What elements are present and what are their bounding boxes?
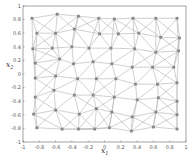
mesh-edge (161, 37, 180, 38)
mesh-edge (156, 38, 180, 52)
mesh-node (136, 98, 139, 101)
mesh-node (34, 62, 37, 65)
mesh-edge (156, 51, 179, 52)
mesh-edge (111, 48, 112, 64)
mesh-node (35, 126, 38, 129)
mesh-edge (118, 33, 138, 34)
mesh-edge (112, 64, 116, 79)
mesh-edge (139, 18, 156, 33)
mesh-edge (137, 98, 158, 100)
mesh-edge (32, 18, 56, 33)
mesh-node (31, 17, 34, 20)
mesh-node (76, 77, 79, 80)
mesh-edge (62, 114, 79, 129)
mesh-node (115, 77, 118, 80)
mesh-edge (79, 95, 93, 114)
mesh-edge (89, 48, 93, 62)
x-tick-label: 0.6 (149, 144, 157, 150)
mesh-edge (153, 115, 177, 127)
mesh-node (113, 18, 116, 21)
mesh-edge (56, 95, 75, 110)
x-tick-label: -0.4 (67, 144, 77, 150)
mesh-node (95, 77, 98, 80)
mesh-edge (93, 79, 96, 95)
mesh-edge (56, 110, 80, 114)
mesh-edge (56, 33, 60, 59)
mesh-edge (112, 112, 132, 117)
x-tick-label: 0.8 (166, 144, 174, 150)
y-tick-label: -0.6 (11, 112, 21, 118)
mesh-edge (157, 84, 177, 101)
mesh-node (133, 47, 136, 50)
mesh-edge (96, 64, 111, 79)
mesh-edge (35, 76, 55, 78)
mesh-edge (111, 48, 135, 49)
mesh-node (132, 17, 135, 20)
mesh-node (176, 100, 179, 103)
mesh-node (113, 96, 116, 99)
mesh-edge (135, 84, 137, 100)
mesh-edge (89, 34, 100, 48)
mesh-edge (100, 34, 111, 48)
mesh-edge (174, 67, 177, 83)
x-tick-label: -1 (21, 144, 26, 150)
mesh-edge (99, 18, 114, 19)
y-tick-label: -1 (16, 139, 21, 145)
mesh-node (176, 81, 179, 84)
mesh-edge (74, 95, 96, 109)
mesh-edge (135, 33, 139, 49)
mesh-edge (93, 62, 112, 64)
mesh-edge (96, 97, 114, 109)
mesh-node (95, 107, 98, 110)
mesh-edge (54, 90, 56, 110)
mesh-edge (78, 79, 93, 95)
mesh-edge (57, 14, 78, 16)
mesh-edge (96, 109, 109, 128)
mesh-node (53, 89, 56, 92)
mesh-node (154, 17, 157, 20)
x-tick-label: 0.2 (117, 144, 125, 150)
mesh-edge (32, 18, 33, 49)
mesh-edge (78, 114, 79, 129)
mesh-edge (111, 19, 114, 48)
mesh-node (130, 130, 133, 133)
mesh-edge (74, 64, 78, 79)
mesh-edge (52, 47, 72, 48)
mesh-edge (114, 79, 116, 97)
mesh-node (110, 62, 113, 65)
mesh-edge (116, 67, 132, 79)
mesh-edge (72, 47, 89, 48)
mesh-node (98, 32, 101, 35)
mesh-edge (54, 79, 78, 91)
mesh-node (77, 15, 80, 18)
mesh-edge (99, 18, 100, 34)
mesh-edge (32, 18, 37, 33)
mesh-edge (158, 83, 177, 98)
mesh-node (61, 128, 64, 131)
mesh-node (131, 115, 134, 118)
mesh-node (156, 83, 159, 86)
mesh-edge (74, 29, 89, 48)
x-tick-label: -0.8 (34, 144, 44, 150)
mesh-edge (153, 52, 156, 67)
mesh-node (72, 62, 75, 65)
mesh-edge (79, 114, 94, 129)
mesh-node (176, 113, 179, 116)
mesh-node (88, 47, 91, 50)
mesh-edge (132, 52, 156, 67)
y-tick-label: 0.4 (13, 44, 21, 50)
mesh-node (178, 37, 181, 40)
mesh-edge (74, 18, 98, 29)
mesh-edge (54, 90, 74, 95)
mesh-node (137, 32, 140, 35)
mesh-edge (157, 83, 177, 84)
x-tick-label: -0.6 (51, 144, 61, 150)
mesh-node (154, 111, 157, 114)
x-tick-label: 1 (184, 144, 187, 150)
mesh-node (117, 32, 120, 35)
mesh-node (131, 66, 134, 69)
mesh-node (78, 113, 81, 116)
mesh-edge (74, 48, 89, 64)
mesh-node (77, 128, 80, 131)
mesh-edge (78, 62, 93, 79)
